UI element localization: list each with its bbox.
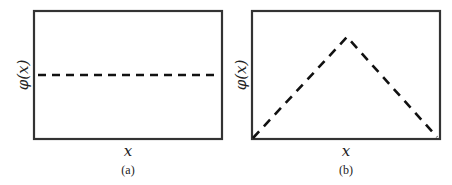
panel-a-ylabel: φ(x)	[14, 60, 32, 91]
panel-b-ylabel: φ(x)	[232, 60, 250, 91]
panel-b: x φ(x) (b)	[232, 11, 440, 177]
figure-canvas: x φ(x) (a) x φ(x) (b)	[0, 0, 452, 185]
panel-a: x φ(x) (a)	[14, 11, 222, 177]
panel-a-caption: (a)	[121, 163, 134, 177]
panel-b-caption: (b)	[339, 163, 353, 177]
panel-b-triangle-curve	[253, 37, 437, 138]
panel-b-frame	[252, 11, 440, 139]
panel-a-xlabel: x	[124, 142, 133, 160]
panel-b-xlabel: x	[342, 142, 351, 160]
